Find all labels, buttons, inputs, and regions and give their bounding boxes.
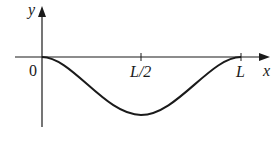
tick-label-half-L: L/2	[130, 64, 151, 80]
x-axis-arrow-icon	[259, 53, 270, 61]
x-axis-label: x	[263, 63, 270, 79]
diagram-canvas: y 0 L/2 L x	[0, 0, 271, 151]
y-axis-arrow-icon	[38, 6, 46, 17]
y-axis-label: y	[28, 2, 35, 18]
origin-label: 0	[29, 63, 37, 79]
tick-label-L: L	[236, 64, 245, 80]
